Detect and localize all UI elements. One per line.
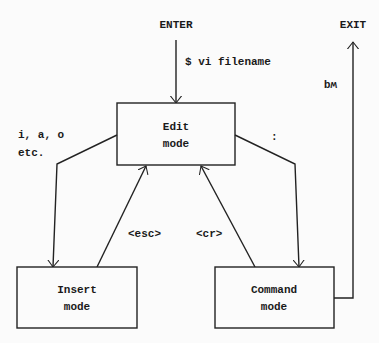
edit-mode-line1: Edit — [163, 121, 189, 133]
edit-to-insert-arrow — [53, 135, 117, 267]
insert-mode-line2: mode — [64, 301, 91, 313]
insert-keys-label-line1: i, a, o — [18, 129, 65, 141]
command-mode-box — [215, 267, 334, 328]
insert-mode-node: Insert mode — [17, 267, 137, 328]
wq-label: wq — [324, 79, 337, 91]
edit-mode-box — [117, 103, 235, 165]
edit-mode-node: Edit mode — [117, 103, 235, 165]
command-mode-line1: Command — [251, 284, 297, 296]
esc-arrow — [97, 166, 146, 267]
edit-mode-line2: mode — [163, 138, 190, 150]
cr-arrow — [201, 166, 255, 267]
command-mode-line2: mode — [261, 301, 288, 313]
vi-modes-diagram: ENTER $ vi filename EXIT wq Edit mode i,… — [0, 0, 379, 343]
esc-label: <esc> — [128, 228, 161, 240]
vi-filename-label: $ vi filename — [185, 56, 271, 68]
colon-label: : — [271, 131, 278, 143]
cr-label: <cr> — [196, 228, 223, 240]
exit-label: EXIT — [340, 19, 367, 31]
insert-keys-label-line2: etc. — [18, 147, 44, 159]
command-mode-node: Command mode — [215, 267, 334, 328]
insert-mode-line1: Insert — [57, 284, 97, 296]
enter-label: ENTER — [159, 19, 192, 31]
insert-mode-box — [17, 267, 137, 328]
